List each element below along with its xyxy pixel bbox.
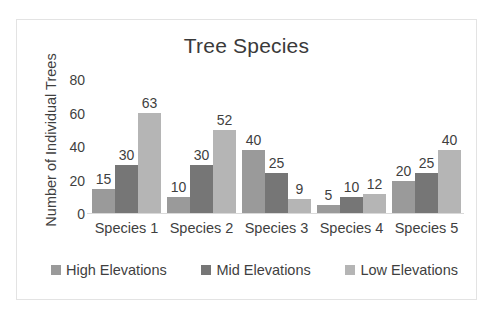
y-axis-tick-60: 60: [69, 106, 85, 122]
chart-frame: Tree Species Number of Individual Trees …: [16, 19, 477, 300]
bar[interactable]: [242, 150, 265, 214]
legend-item[interactable]: Low Elevations: [345, 262, 458, 278]
x-axis-category-label: Species 4: [314, 220, 389, 236]
bar-value-label: 40: [442, 133, 458, 147]
bar-wrapper: 10: [340, 70, 363, 213]
bar[interactable]: [363, 194, 386, 213]
bar-wrapper: 63: [138, 70, 161, 213]
x-axis-category-label: Species 5: [389, 220, 464, 236]
legend-label: High Elevations: [66, 262, 167, 278]
bar-wrapper: 9: [288, 70, 311, 213]
y-axis-tick-20: 20: [69, 173, 85, 189]
bar-wrapper: 15: [92, 70, 115, 213]
bar-value-label: 40: [246, 133, 262, 147]
y-axis-tick-40: 40: [69, 139, 85, 155]
bar[interactable]: [213, 130, 236, 213]
chart-title: Tree Species: [17, 34, 476, 58]
bar-value-label: 10: [344, 180, 360, 194]
bar-value-label: 30: [194, 148, 210, 162]
bar-wrapper: 30: [190, 70, 213, 213]
bar[interactable]: [317, 205, 340, 213]
legend-swatch-icon: [201, 265, 211, 275]
bar-group: 153063: [89, 70, 164, 213]
bar-wrapper: 10: [167, 70, 190, 213]
bar[interactable]: [340, 197, 363, 213]
legend-label: Low Elevations: [360, 262, 458, 278]
bar-group: 103052: [164, 70, 239, 213]
bar-value-label: 25: [269, 156, 285, 170]
bar[interactable]: [392, 181, 415, 213]
bar-wrapper: 40: [438, 70, 461, 213]
legend-item[interactable]: High Elevations: [51, 262, 167, 278]
bar-value-label: 5: [325, 188, 333, 202]
bar[interactable]: [138, 113, 161, 213]
bar-wrapper: 25: [415, 70, 438, 213]
bar[interactable]: [92, 189, 115, 213]
bar[interactable]: [288, 199, 311, 213]
bar[interactable]: [415, 173, 438, 213]
x-axis-category-label: Species 3: [239, 220, 314, 236]
bar-value-label: 63: [142, 96, 158, 110]
bar-wrapper: 40: [242, 70, 265, 213]
y-axis-tick-labels: 020406080: [53, 80, 85, 214]
legend-label: Mid Elevations: [216, 262, 310, 278]
bar-wrapper: 20: [392, 70, 415, 213]
bar-wrapper: 12: [363, 70, 386, 213]
bar[interactable]: [115, 165, 138, 213]
legend-swatch-icon: [345, 265, 355, 275]
bar-group: 202540: [389, 70, 464, 213]
bar-value-label: 9: [296, 182, 304, 196]
bar[interactable]: [438, 150, 461, 214]
bar-value-label: 52: [217, 113, 233, 127]
bar-value-label: 30: [119, 148, 135, 162]
bar-wrapper: 52: [213, 70, 236, 213]
bar-value-label: 25: [419, 156, 435, 170]
bar-value-label: 10: [171, 180, 187, 194]
x-axis-category-label: Species 1: [89, 220, 164, 236]
x-axis-line: [87, 213, 464, 214]
legend-item[interactable]: Mid Elevations: [201, 262, 310, 278]
bar-groups: 1530631030524025951012202540: [89, 70, 464, 213]
x-axis-category-labels: Species 1Species 2Species 3Species 4Spec…: [89, 220, 464, 236]
y-axis-tick-0: 0: [77, 206, 85, 222]
bar-wrapper: 25: [265, 70, 288, 213]
chart-legend: High ElevationsMid ElevationsLow Elevati…: [47, 262, 462, 278]
bar[interactable]: [167, 197, 190, 213]
bar-value-label: 12: [367, 177, 383, 191]
x-axis-category-label: Species 2: [164, 220, 239, 236]
bar-group: 51012: [314, 70, 389, 213]
bar-group: 40259: [239, 70, 314, 213]
bar-wrapper: 30: [115, 70, 138, 213]
bar-value-label: 15: [96, 172, 112, 186]
bar[interactable]: [190, 165, 213, 213]
y-axis-tick-80: 80: [69, 72, 85, 88]
bar[interactable]: [265, 173, 288, 213]
legend-swatch-icon: [51, 265, 61, 275]
bar-wrapper: 5: [317, 70, 340, 213]
bar-value-label: 20: [396, 164, 412, 178]
